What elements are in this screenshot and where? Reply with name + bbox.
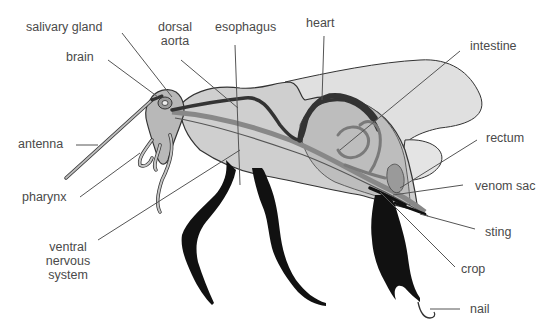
label-vns-line1: ventral	[38, 240, 98, 254]
label-pharynx: pharynx	[22, 190, 66, 204]
claw-shape	[418, 302, 435, 318]
label-rectum: rectum	[486, 131, 524, 145]
label-vns-line3: system	[38, 268, 98, 282]
label-dorsal-aorta-line1: dorsal	[148, 20, 202, 34]
label-nail: nail	[470, 302, 489, 316]
label-heart: heart	[306, 16, 335, 30]
leader-sting	[420, 214, 475, 229]
label-brain: brain	[66, 50, 94, 64]
label-venom-sac: venom sac	[475, 179, 535, 193]
leader-brain	[108, 60, 158, 97]
label-dorsal-aorta-line2: aorta	[148, 34, 202, 48]
label-ventral-nervous-system: ventral nervous system	[38, 240, 98, 282]
label-esophagus: esophagus	[215, 20, 276, 34]
hind-leg	[371, 195, 420, 302]
label-intestine: intestine	[470, 39, 517, 53]
label-dorsal-aorta: dorsal aorta	[148, 20, 202, 48]
leader-pharynx	[80, 153, 140, 197]
label-crop: crop	[461, 262, 485, 276]
label-vns-line2: nervous	[38, 254, 98, 268]
label-sting: sting	[485, 225, 511, 239]
eye-highlight	[162, 101, 168, 106]
label-salivary-gland: salivary gland	[26, 20, 102, 34]
middle-leg	[252, 168, 326, 306]
label-antenna: antenna	[18, 137, 63, 151]
